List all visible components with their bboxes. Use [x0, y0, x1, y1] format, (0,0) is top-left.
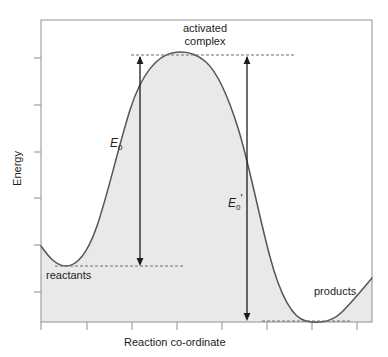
activation-energy-forward-label: E0 [110, 137, 122, 154]
products-label: products [314, 285, 356, 298]
e0-prime-subscript: 0 [236, 203, 240, 212]
y-axis-ticks [34, 58, 41, 292]
x-axis-label: Reaction co-ordinate [124, 336, 226, 349]
y-axis-label: Energy [11, 139, 24, 199]
activated-complex-label: activatedcomplex [160, 22, 250, 48]
activation-energy-reverse-label: E0' [228, 192, 243, 214]
e0-subscript: 0 [118, 143, 122, 152]
prime-mark: ' [240, 192, 242, 204]
diagram-svg [0, 0, 388, 357]
reactants-label: reactants [46, 269, 91, 282]
x-axis-ticks [41, 322, 357, 330]
energy-profile-diagram: activatedcomplex reactants products Reac… [0, 0, 388, 357]
